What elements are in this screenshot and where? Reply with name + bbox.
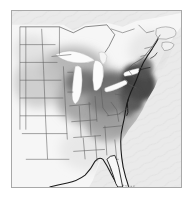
map-frame (11, 10, 182, 188)
map-figure: Eastern United States Intensity Map (0, 0, 191, 199)
region-dakotas (14, 35, 50, 67)
map-canvas (12, 11, 181, 187)
map-svg (12, 11, 181, 187)
figure-title: Eastern United States Intensity Map (0, 21, 1, 22)
